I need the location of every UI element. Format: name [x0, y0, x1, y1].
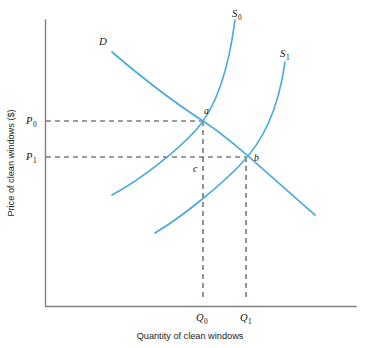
y-axis-title: Price of clean windows ($): [6, 109, 16, 216]
x-axis-title: Quantity of clean windows: [137, 331, 244, 341]
x-axis-tick-labels: Q0 Q1: [196, 312, 252, 326]
axis-lines: [46, 20, 357, 307]
curve-label-d: D: [98, 35, 107, 47]
curve-label-s1: S1: [280, 47, 290, 62]
supply-curve-s0: [112, 20, 235, 195]
supply-demand-chart-svg: D S0 S1 a b c P0 P1 Q0: [0, 0, 365, 348]
chart-axes: [46, 20, 357, 307]
y-axis-tick-labels: P0 P1: [25, 115, 37, 165]
y-tick-p1: P1: [25, 151, 37, 165]
y-tick-p0: P0: [25, 115, 37, 129]
guide-lines: [46, 121, 246, 300]
x-tick-q1: Q1: [240, 312, 252, 326]
point-label-b: b: [254, 152, 259, 163]
supply-demand-figure: D S0 S1 a b c P0 P1 Q0: [0, 0, 365, 348]
point-label-c: c: [193, 163, 198, 174]
point-label-a: a: [204, 105, 209, 116]
curve-label-s0: S0: [232, 7, 242, 22]
curve-labels: D S0 S1: [98, 7, 290, 62]
x-tick-q0: Q0: [196, 312, 208, 326]
